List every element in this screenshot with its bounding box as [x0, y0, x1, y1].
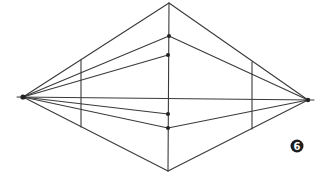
left-ray-lower-2 — [23, 97, 168, 128]
left-vanishing-point — [20, 94, 25, 99]
step-badge: 6 — [291, 140, 304, 153]
center-dot-1 — [167, 34, 171, 38]
center-dot-3 — [166, 112, 170, 116]
center-dot-4 — [166, 126, 170, 130]
center-vertical-edge — [168, 3, 169, 171]
right-ray-upper — [169, 36, 308, 100]
horizon-line — [17, 97, 314, 100]
right-ray-top — [169, 3, 308, 100]
right-ray-lower — [168, 100, 308, 128]
right-vanishing-point — [306, 98, 310, 102]
perspective-diagram: 6 — [0, 0, 315, 185]
center-dot-2 — [166, 53, 170, 57]
left-ray-lower-1 — [23, 97, 168, 114]
right-ray-bottom — [168, 100, 308, 171]
left-ray-upper-2 — [23, 55, 168, 97]
step-badge-number: 6 — [294, 141, 301, 152]
left-ray-upper-1 — [23, 36, 169, 97]
left-ray-bottom — [23, 97, 168, 171]
left-ray-top — [23, 3, 169, 97]
